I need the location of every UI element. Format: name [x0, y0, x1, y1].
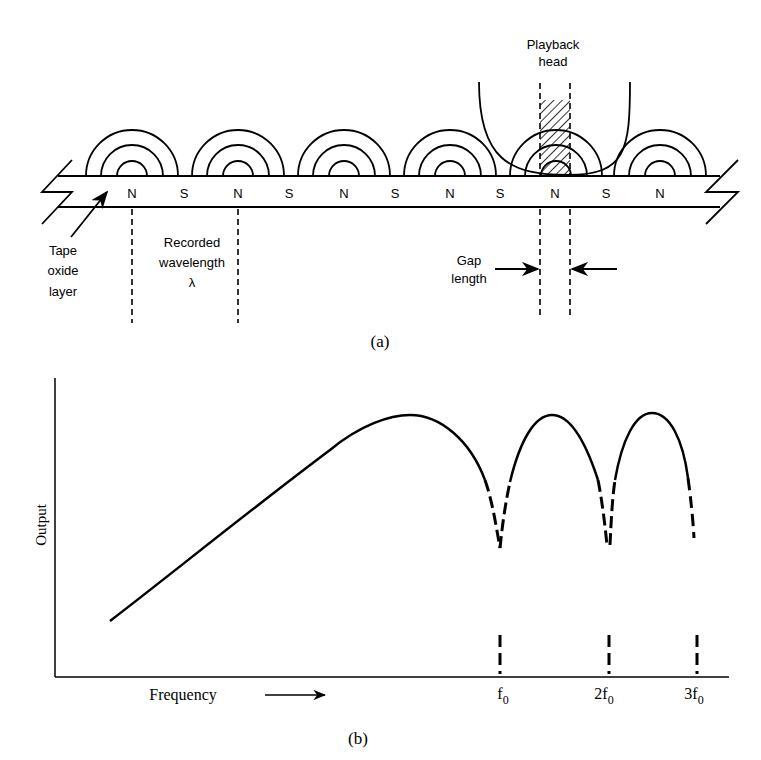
- recorded-wavelength-label: wavelength: [158, 255, 225, 270]
- tape-oxide-label: oxide: [47, 263, 78, 278]
- tape-oxide-arrow: [71, 192, 107, 237]
- pole-label: S: [602, 186, 611, 201]
- pole-label: S: [496, 186, 505, 201]
- flux-group-1: [86, 130, 178, 176]
- figure-a-tape-diagram: [42, 82, 738, 323]
- response-curve-main: [110, 415, 485, 621]
- pole-labels: N S N S N S N S N S N: [127, 186, 664, 201]
- gap-length-label: length: [451, 271, 486, 286]
- pole-label: S: [285, 186, 294, 201]
- tape-break-left: [42, 160, 72, 224]
- pole-label: S: [391, 186, 400, 201]
- tape-oxide-label: Tape: [49, 243, 77, 258]
- recorded-wavelength-label: Recorded: [164, 235, 220, 250]
- tick-label-3f0: 3f0: [684, 685, 703, 707]
- tick-label-f0: f0: [497, 685, 508, 707]
- figure-b-frequency-plot: [55, 378, 729, 695]
- pole-label: S: [180, 186, 189, 201]
- pole-label: N: [445, 186, 454, 201]
- wavelength-lambda-symbol: λ: [189, 275, 196, 290]
- y-axis-label: Output: [33, 503, 49, 546]
- pole-label: N: [233, 186, 242, 201]
- response-curve-null-1-left: [485, 480, 500, 548]
- pole-label: N: [127, 186, 136, 201]
- figure-a-caption: (a): [371, 332, 390, 351]
- response-curve-null-1-right: [500, 482, 510, 548]
- pole-label: N: [550, 186, 559, 201]
- playback-head-label: head: [539, 54, 568, 69]
- response-curve-null-2-left: [598, 480, 607, 545]
- figure-canvas: N S N S N S N S N S N Playback head Tape…: [0, 0, 761, 760]
- pole-label: N: [339, 186, 348, 201]
- tape-oxide-label: layer: [49, 284, 78, 299]
- tape-break-right: [706, 160, 738, 224]
- x-axis-label: Frequency: [149, 686, 217, 704]
- flux-group-2: [192, 130, 284, 176]
- tick-label-2f0: 2f0: [594, 685, 613, 707]
- flux-group-6: [614, 130, 706, 176]
- response-curve-tail: [688, 478, 694, 538]
- figure-b-caption: (b): [348, 729, 368, 748]
- gap-length-label: Gap: [457, 253, 482, 268]
- response-curve-null-2-right: [610, 480, 615, 545]
- flux-group-4: [404, 130, 496, 176]
- flux-lines: [86, 130, 706, 176]
- playback-head-label: Playback: [527, 37, 580, 52]
- response-curve-lobe-2: [510, 415, 598, 482]
- response-curve-lobe-3: [615, 413, 688, 480]
- flux-group-3: [298, 130, 390, 176]
- pole-label: N: [655, 186, 664, 201]
